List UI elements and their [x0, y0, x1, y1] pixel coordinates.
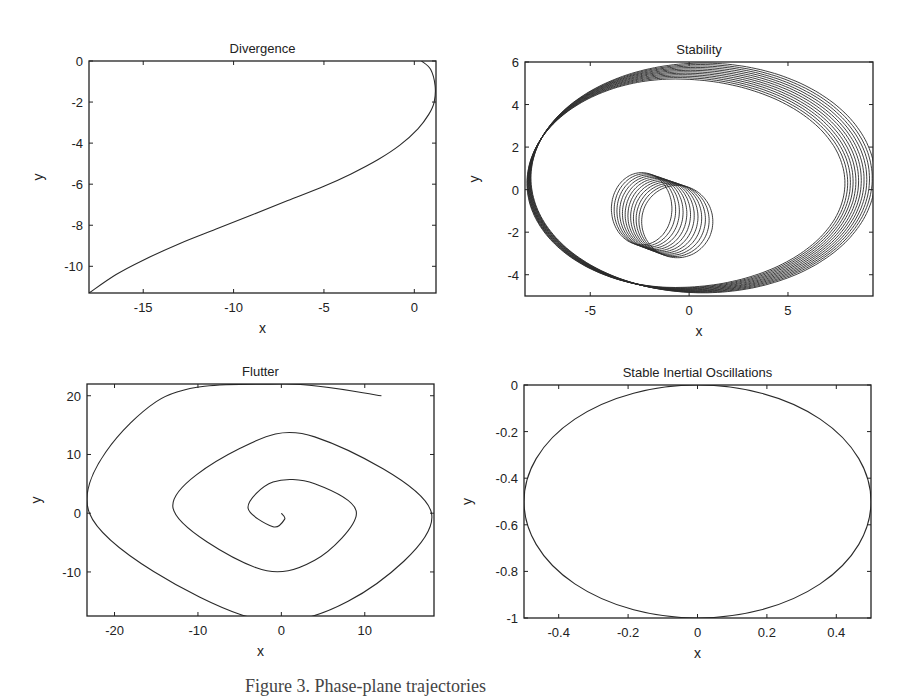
y-tick-label: 2 — [512, 140, 519, 155]
chart-title: Divergence — [230, 41, 296, 56]
axes-frame — [89, 61, 436, 293]
chart-inertial: Stable Inertial Oscillations-0.4-0.200.2… — [459, 365, 871, 661]
chart-stability: Stability-5056420-2-4xy — [466, 42, 875, 339]
x-tick-label: -10 — [224, 300, 243, 315]
x-tick-label: -15 — [134, 300, 153, 315]
figure-canvas: Divergence-15-10-500-2-4-6-8-10xyStabili… — [0, 0, 910, 696]
x-tick-label: -0.2 — [617, 625, 639, 640]
y-tick-label: -4 — [71, 136, 83, 151]
y-tick-label: 20 — [67, 389, 81, 404]
y-axis-label: y — [466, 176, 482, 183]
y-tick-label: -6 — [71, 177, 83, 192]
y-tick-label: -10 — [64, 259, 83, 274]
y-tick-label: 0 — [76, 54, 83, 69]
x-axis-label: x — [257, 643, 264, 659]
figure: Divergence-15-10-500-2-4-6-8-10xyStabili… — [0, 0, 910, 696]
y-tick-label: 0 — [74, 506, 81, 521]
y-axis-label: y — [459, 498, 475, 505]
x-tick-label: -20 — [105, 623, 124, 638]
x-tick-label: 0 — [278, 623, 285, 638]
y-tick-label: -4 — [507, 268, 519, 283]
x-axis-label: x — [694, 645, 701, 661]
x-tick-label: 5 — [784, 303, 791, 318]
chart-title: Stability — [676, 42, 722, 57]
y-tick-label: -1 — [506, 611, 518, 626]
y-axis-label: y — [30, 174, 46, 181]
x-tick-label: -5 — [318, 300, 330, 315]
y-tick-label: -10 — [62, 565, 81, 580]
y-tick-label: -0.4 — [496, 471, 518, 486]
y-tick-label: 4 — [512, 98, 519, 113]
inner-loop-line — [620, 176, 683, 248]
inner-loop-line — [622, 177, 686, 249]
x-tick-label: -0.4 — [547, 625, 569, 640]
x-tick-label: -10 — [189, 623, 208, 638]
plot-area — [87, 384, 432, 621]
y-tick-label: 0 — [511, 378, 518, 393]
chart-divergence: Divergence-15-10-500-2-4-6-8-10xy — [30, 41, 436, 336]
ellipse-line — [524, 385, 871, 618]
chart-flutter: Flutter-20-1001020100-10xy — [28, 364, 434, 659]
y-tick-label: 6 — [512, 55, 519, 70]
y-tick-label: -0.8 — [496, 564, 518, 579]
y-tick-label: -2 — [507, 225, 519, 240]
x-tick-label: 0.2 — [758, 625, 776, 640]
x-tick-label: 0 — [694, 625, 701, 640]
axes-frame — [524, 385, 871, 618]
plot-area — [527, 63, 875, 293]
x-tick-label: 0.4 — [827, 625, 845, 640]
chart-title: Flutter — [242, 364, 280, 379]
x-axis-label: x — [259, 320, 266, 336]
x-tick-label: 0 — [685, 303, 692, 318]
x-tick-label: 10 — [358, 623, 372, 638]
x-tick-label: 0 — [411, 300, 418, 315]
plot-area — [89, 61, 435, 293]
y-tick-label: 0 — [512, 183, 519, 198]
plot-area — [524, 385, 871, 618]
x-tick-label: -5 — [584, 303, 596, 318]
chart-title: Stable Inertial Oscillations — [623, 365, 773, 380]
figure-caption: Figure 3. Phase-plane trajectories — [245, 676, 486, 696]
y-tick-label: -2 — [71, 95, 83, 110]
y-tick-label: -0.6 — [496, 518, 518, 533]
y-tick-label: -0.2 — [496, 425, 518, 440]
x-axis-label: x — [696, 323, 703, 339]
trajectory-line — [87, 384, 432, 621]
trajectory-line — [89, 61, 435, 293]
y-axis-label: y — [28, 497, 44, 504]
axes-frame — [87, 384, 434, 616]
y-tick-label: -8 — [71, 218, 83, 233]
y-tick-label: 10 — [67, 447, 81, 462]
